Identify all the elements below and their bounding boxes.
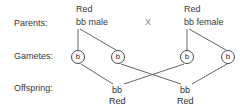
parent2-genotype: bb female [184,17,224,27]
cross-symbol: X [145,17,151,27]
punnett-cross-diagram: Parents: Gametes: Offspring: Red bb male… [0,0,240,110]
row-label-parents: Parents: [14,18,48,28]
parent1-phenotype: Red [76,4,93,14]
offspring1-genotype: bb [112,85,122,95]
parent2-phenotype: Red [184,4,201,14]
offspring2-genotype: bb [180,85,190,95]
offspring2-phenotype: Red [177,96,194,106]
gamete-circle-1: b [71,50,85,64]
line-gamete3-to-offspring1 [124,64,184,84]
parent1-genotype: bb male [76,17,108,27]
line-gamete2-to-offspring2 [121,64,181,84]
gamete-circle-2: b [111,50,125,64]
line-gamete1-to-offspring1 [81,64,113,84]
gamete-circle-4: b [221,50,235,64]
gamete-circle-3: b [180,50,194,64]
row-label-offspring: Offspring: [14,83,53,93]
line-parent2-to-gamete4 [189,29,226,50]
line-parent1-to-gamete2 [80,29,116,50]
offspring1-phenotype: Red [109,96,126,106]
row-label-gametes: Gametes: [14,51,53,61]
line-gamete4-to-offspring2 [192,64,227,84]
